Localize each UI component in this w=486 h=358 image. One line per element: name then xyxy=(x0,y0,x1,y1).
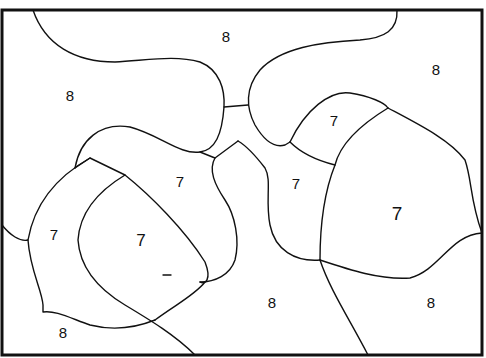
drawing-canvas xyxy=(0,0,486,358)
region-outline xyxy=(33,10,224,168)
region-label: 8 xyxy=(268,295,276,310)
region-outline xyxy=(290,142,335,165)
region-outline xyxy=(200,152,215,158)
region-outline xyxy=(320,260,368,355)
region-outline xyxy=(75,158,208,283)
region-label: 8 xyxy=(432,62,440,77)
region-outline xyxy=(238,141,320,260)
region-label: 8 xyxy=(59,325,67,340)
region-outline xyxy=(200,141,238,282)
region-label: 8 xyxy=(66,88,74,103)
region-outline xyxy=(320,108,388,260)
region-label: 7 xyxy=(136,232,145,249)
region-label: 7 xyxy=(50,227,58,242)
region-label: 7 xyxy=(392,204,403,223)
region-outline xyxy=(320,233,482,278)
region-label: 8 xyxy=(427,295,435,310)
region-label: 8 xyxy=(222,29,230,44)
region-outline xyxy=(155,282,205,320)
region-label: 7 xyxy=(176,174,184,189)
border-frame xyxy=(2,10,482,355)
region-outline xyxy=(2,225,28,240)
region-label: 7 xyxy=(292,176,300,191)
region-label: 7 xyxy=(330,113,338,128)
region-outline xyxy=(248,10,397,146)
region-outline xyxy=(224,105,248,107)
region-outline xyxy=(78,175,195,355)
